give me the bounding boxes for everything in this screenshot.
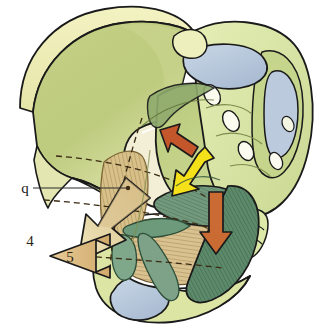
- pelvis-illustration: 4 5 q: [0, 0, 327, 330]
- arrow-4-label: 4: [26, 233, 34, 249]
- arrow-5-label: 5: [66, 249, 74, 265]
- q-leader-dot: [126, 186, 130, 190]
- q-label: q: [21, 180, 29, 196]
- sacral-promontory: [173, 30, 207, 59]
- anatomical-figure: 4 5 q: [0, 0, 327, 330]
